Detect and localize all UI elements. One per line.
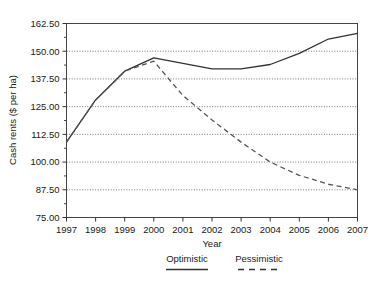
- y-tick-label: 75.00: [36, 212, 60, 223]
- y-tick-label: 112.50: [31, 129, 59, 140]
- y-tick-label: 150.00: [30, 46, 59, 57]
- x-tick-label: 2007: [347, 224, 368, 235]
- x-tick-label: 2001: [172, 224, 193, 235]
- x-tick-label: 2005: [289, 224, 310, 235]
- x-axis-title: Year: [202, 238, 221, 249]
- x-tick-label: 1998: [85, 224, 106, 235]
- y-tick-label: 125.00: [30, 101, 59, 112]
- x-tick-labels: 1997199819992000200120022003200420052006…: [56, 224, 368, 235]
- chart-figure: 162.50150.00137.50125.00112.50100.0087.5…: [0, 0, 379, 281]
- legend-label-optimistic: Optimistic: [166, 253, 208, 264]
- x-tick-label: 1999: [114, 224, 135, 235]
- y-tick-label: 162.50: [30, 18, 59, 29]
- x-tick-label: 2003: [231, 224, 252, 235]
- y-tick-label: 100.00: [30, 156, 59, 167]
- y-tick-label: 87.50: [36, 184, 60, 195]
- cash-rents-line-chart: 162.50150.00137.50125.00112.50100.0087.5…: [0, 0, 379, 281]
- x-tick-label: 2000: [143, 224, 164, 235]
- x-tick-label: 2002: [201, 224, 222, 235]
- legend-label-pessimistic: Pessimistic: [235, 253, 283, 264]
- x-tick-label: 1997: [56, 224, 77, 235]
- y-axis-title: Cash rents ($ per ha): [7, 75, 18, 165]
- x-tick-label: 2006: [318, 224, 339, 235]
- x-tick-label: 2004: [260, 224, 281, 235]
- y-tick-label: 137.50: [30, 73, 59, 84]
